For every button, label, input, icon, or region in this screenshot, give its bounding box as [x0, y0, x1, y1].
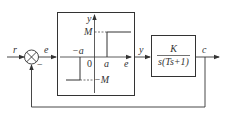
- label-a: a: [104, 58, 109, 69]
- input-signal: r: [7, 44, 24, 57]
- label-neg-M: −M: [94, 74, 110, 85]
- label-c: c: [202, 44, 207, 55]
- label-neg-a: −a: [72, 45, 84, 56]
- label-origin: 0: [87, 58, 92, 69]
- label-y: y: [138, 44, 144, 55]
- summing-junction: −: [25, 50, 44, 70]
- output-signal: c: [196, 44, 220, 57]
- nonlinear-output-signal: y: [135, 44, 151, 57]
- label-minus: −: [37, 59, 43, 70]
- plant-block: K s(Ts+1): [152, 36, 196, 77]
- block-diagram: r − e y M −a 0 a e −M y: [0, 0, 227, 117]
- label-r: r: [13, 44, 17, 55]
- label-e-axis: e: [124, 58, 129, 69]
- plant-numerator: K: [169, 43, 178, 54]
- plant-denominator: s(Ts+1): [158, 56, 190, 68]
- label-e: e: [44, 44, 49, 55]
- error-signal: e: [39, 44, 57, 57]
- label-y-axis: y: [86, 13, 92, 24]
- label-M: M: [83, 26, 93, 37]
- nonlinear-block: y M −a 0 a e −M: [58, 13, 135, 96]
